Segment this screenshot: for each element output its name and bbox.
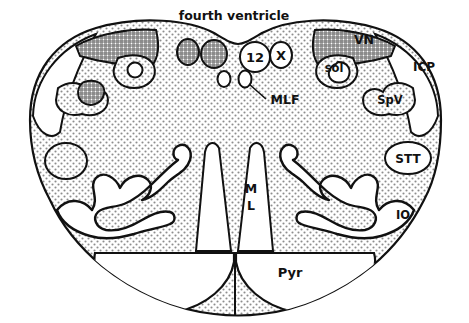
mlf-oval-left [218,71,231,87]
label-stt: STT [395,152,421,166]
label-io: IO [396,208,410,222]
solitary-tract-left [128,63,143,78]
medulla-cross-section-diagram: fourth ventricle 12 X sol VN ICP SpV MLF… [0,0,469,323]
label-medial-lemniscus-l: L [247,198,255,213]
label-vagal-nucleus: X [276,48,286,63]
label-vestibular-nucleus: VN [354,32,374,47]
accessory-nucleus-left [78,81,104,105]
label-spv: SpV [377,93,403,107]
label-icp: ICP [413,60,435,74]
label-medial-lemniscus-m: M [245,181,257,196]
paramedian-nucleus-left-inner [201,40,227,68]
paramedian-nucleus-left-outer [177,39,199,65]
spinothalamic-tract-left [45,143,87,179]
label-fourth-ventricle: fourth ventricle [179,8,289,23]
figure-canvas: fourth ventricle 12 X sol VN ICP SpV MLF… [0,0,469,323]
label-pyramid: Pyr [278,265,303,280]
label-hypoglossal-nucleus: 12 [246,50,264,65]
label-solitary-nucleus: sol [325,61,344,75]
label-mlf: MLF [271,92,300,107]
